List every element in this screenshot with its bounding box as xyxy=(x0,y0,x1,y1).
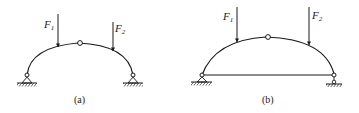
crown-hinge-a-icon xyxy=(78,41,83,46)
arch-b xyxy=(202,37,334,75)
figure-b: F1 F2 (b) xyxy=(191,7,342,106)
caption-a: (a) xyxy=(74,94,85,106)
load-f2-a: F2 xyxy=(113,22,126,51)
arch-diagrams: F1 F2 (a) xyxy=(0,0,359,113)
load-f2-b: F2 xyxy=(309,7,323,45)
caption-b: (b) xyxy=(262,94,274,106)
load-f1-b: F1 xyxy=(222,7,237,42)
figure-a: F1 F2 (a) xyxy=(17,14,143,106)
crown-hinge-b-icon xyxy=(266,35,271,40)
pin-support-left-a-icon xyxy=(17,73,37,87)
load-label: F1 xyxy=(43,18,54,32)
load-label: F2 xyxy=(311,9,323,23)
load-f1-a: F1 xyxy=(43,14,58,47)
load-label: F1 xyxy=(222,10,233,24)
arch-a xyxy=(27,43,133,75)
load-label: F2 xyxy=(114,22,126,36)
pin-support-right-a-icon xyxy=(123,73,143,87)
